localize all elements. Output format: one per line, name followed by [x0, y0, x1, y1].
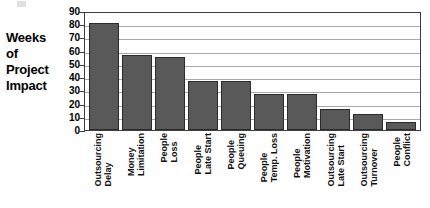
x-category-label: OutsourcingTurnover [354, 133, 384, 208]
bar [353, 114, 383, 130]
y-tick-label: 0 [58, 126, 80, 136]
x-category-label: PeopleConflict [387, 133, 417, 208]
x-axis-category-labels: OutsourcingDelayMoneyLimitationPeopleLos… [84, 133, 421, 208]
y-tick-label: 80 [58, 20, 80, 30]
x-category-label: MoneyLimitation [121, 133, 151, 208]
x-category-label-line: Outsourcing [326, 133, 336, 187]
x-category-label-line: People [193, 133, 203, 175]
x-category-label-text: MoneyLimitation [126, 133, 146, 176]
x-category-label: OutsourcingDelay [88, 133, 118, 208]
x-category-label-line: Conflict [402, 133, 412, 167]
x-category-label-line: People [226, 133, 236, 170]
y-axis-caption-line: Impact [6, 78, 64, 94]
bar [122, 55, 152, 130]
bar [254, 94, 284, 130]
bar [89, 23, 119, 130]
bar [386, 122, 416, 130]
x-category-label-line: Outsourcing [93, 133, 103, 187]
bar-series [85, 13, 420, 130]
x-category-label-line: People [159, 133, 169, 163]
bar-chart-figure: Weeks of Project Impact 9080706050403020… [0, 0, 430, 208]
x-category-label-line: Queuing [236, 133, 246, 170]
y-axis-caption-line: Project [6, 62, 64, 78]
y-tick-label: 70 [58, 33, 80, 43]
x-category-label: PeopleLate Start [187, 133, 217, 208]
y-tick-label: 60 [58, 47, 80, 57]
x-category-label-text: PeopleMotivation [292, 133, 312, 178]
x-category-label-text: PeopleLate Start [193, 133, 213, 175]
x-category-label-line: People [392, 133, 402, 167]
x-category-label-line: Delay [103, 133, 113, 187]
y-tick-label: 50 [58, 60, 80, 70]
y-tick-label: 40 [58, 73, 80, 83]
x-category-label: PeopleLoss [154, 133, 184, 208]
x-category-label-line: Temp. Loss [269, 133, 279, 182]
y-axis-tick-labels: 9080706050403020100 [58, 0, 80, 208]
x-category-label: OutsourcingLate Start [321, 133, 351, 208]
x-category-label-text: PeopleTemp. Loss [259, 133, 279, 182]
bar [221, 81, 251, 130]
x-category-label: PeopleQueuing [221, 133, 251, 208]
x-category-label-text: PeopleLoss [159, 133, 179, 163]
x-category-label-text: OutsourcingTurnover [359, 133, 379, 187]
x-category-label-line: Turnover [369, 133, 379, 187]
x-category-label-line: People [259, 133, 269, 182]
bar [320, 109, 350, 130]
y-axis-caption-line: of [6, 46, 64, 62]
x-category-label: PeopleTemp. Loss [254, 133, 284, 208]
x-category-label-line: Outsourcing [359, 133, 369, 187]
y-axis-caption: Weeks of Project Impact [6, 30, 64, 94]
x-category-label-text: OutsourcingDelay [93, 133, 113, 187]
y-axis-caption-line: Weeks [6, 30, 64, 46]
x-category-label-line: Loss [169, 133, 179, 163]
y-tick-mark [78, 131, 85, 132]
plot-area [84, 12, 421, 131]
x-category-label-line: Late Start [203, 133, 213, 175]
x-category-label-text: OutsourcingLate Start [326, 133, 346, 187]
bar [188, 81, 218, 130]
x-category-label-text: PeopleConflict [392, 133, 412, 167]
bar [287, 94, 317, 130]
y-tick-label: 10 [58, 113, 80, 123]
x-category-label-line: Late Start [336, 133, 346, 187]
x-category-label-line: Motivation [302, 133, 312, 178]
x-category-label: PeopleMotivation [287, 133, 317, 208]
y-tick-label: 30 [58, 86, 80, 96]
x-category-label-text: PeopleQueuing [226, 133, 246, 170]
bar [155, 57, 185, 130]
y-tick-label: 90 [58, 7, 80, 17]
y-tick-label: 20 [58, 100, 80, 110]
scan-artifact [17, 1, 26, 7]
x-category-label-line: Money [126, 133, 136, 176]
x-category-label-line: Limitation [136, 133, 146, 176]
x-category-label-line: People [292, 133, 302, 178]
